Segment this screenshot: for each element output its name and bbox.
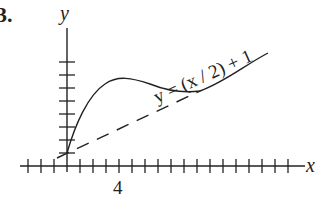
dashed-line-series	[57, 91, 200, 158]
x-tick-label-4: 4	[113, 177, 123, 199]
y-axis-label: y	[60, 2, 69, 25]
problem-number: 3.	[0, 2, 13, 28]
x-axis-label: x	[306, 154, 315, 177]
